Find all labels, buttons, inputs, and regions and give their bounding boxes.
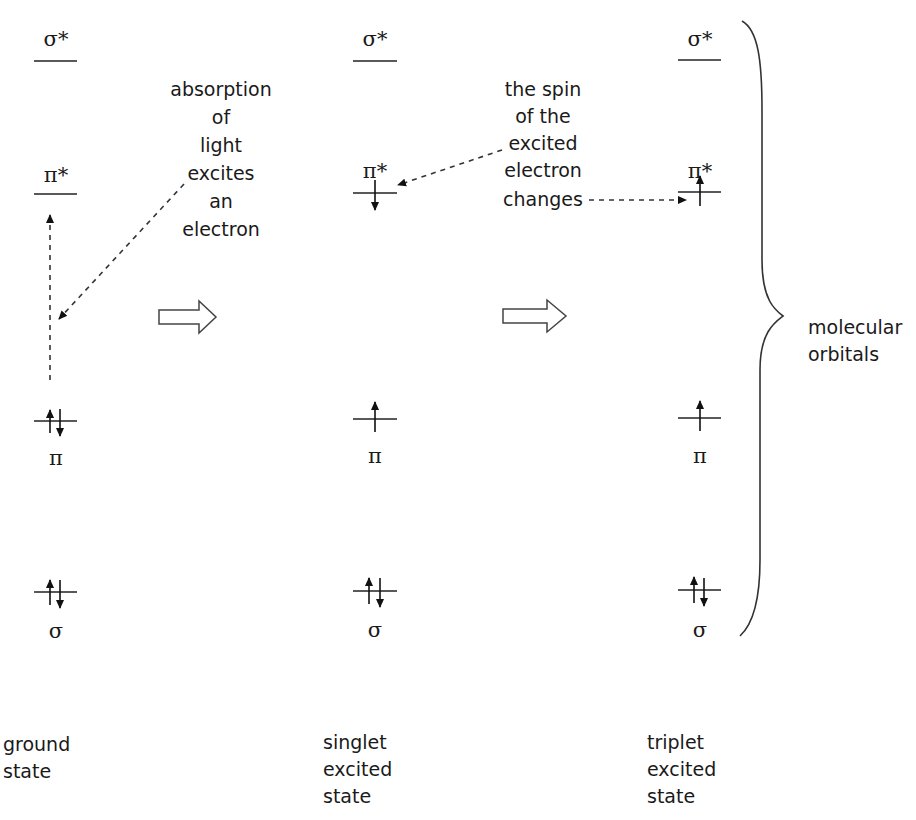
svg-text:electron: electron: [182, 218, 260, 240]
brace-label: molecular orbitals: [808, 316, 903, 365]
transition-arrow-icon: [503, 300, 566, 332]
column-ground-state: σ* π* π σ ground state: [3, 27, 77, 782]
spin-change-annotation: the spin of the excited electron changes: [398, 78, 686, 210]
state-label-line: excited: [647, 758, 716, 780]
svg-text:light: light: [200, 134, 242, 156]
electron-pair-icon: [694, 577, 704, 606]
svg-text:the spin: the spin: [505, 78, 582, 100]
svg-text:an: an: [209, 190, 233, 212]
svg-text:changes: changes: [503, 188, 583, 210]
orbital-label-sigma: σ: [368, 618, 382, 642]
orbital-label-pi-star: π*: [363, 159, 388, 183]
column-singlet-excited-state: σ* π* π σ singlet excited state: [323, 27, 397, 807]
column-triplet-excited-state: σ* π* π σ triplet excited state: [647, 27, 721, 807]
orbital-label-sigma: σ: [693, 618, 707, 642]
jablonski-orbital-diagram: σ* π* π σ ground state absorption of lig…: [0, 0, 916, 820]
orbital-label-pi: π: [49, 446, 63, 470]
orbital-label-sigma-star: σ*: [688, 27, 713, 51]
svg-text:of the: of the: [515, 105, 571, 127]
state-label-line: state: [323, 785, 371, 807]
orbital-label-sigma-star: σ*: [44, 27, 69, 51]
pointer-arrow: [59, 184, 184, 319]
electron-pair-icon: [369, 578, 380, 607]
electron-pair-icon: [50, 409, 60, 436]
svg-text:orbitals: orbitals: [808, 343, 879, 365]
svg-text:excited: excited: [508, 132, 577, 154]
transition-arrow-icon: [159, 301, 216, 333]
brace-icon: [740, 21, 783, 636]
state-label-line: triplet: [647, 731, 704, 753]
state-label-line: state: [647, 785, 695, 807]
state-label-line: singlet: [323, 731, 387, 753]
absorption-annotation: absorption of light excites an electron: [59, 78, 272, 319]
orbital-label-pi: π: [368, 444, 382, 468]
svg-text:excites: excites: [187, 162, 254, 184]
svg-text:of: of: [212, 106, 232, 128]
orbital-label-sigma: σ: [49, 619, 63, 643]
state-label-line: excited: [323, 758, 392, 780]
svg-text:electron: electron: [504, 159, 582, 181]
orbital-label-pi-star: π*: [44, 163, 69, 187]
orbital-label-sigma-star: σ*: [363, 27, 388, 51]
pointer-arrow: [398, 150, 502, 185]
svg-text:molecular: molecular: [808, 316, 903, 338]
state-label-line: ground: [3, 733, 70, 755]
svg-text:absorption: absorption: [170, 78, 272, 100]
orbital-label-pi: π: [693, 444, 707, 468]
electron-pair-icon: [50, 580, 60, 608]
state-label-line: state: [3, 760, 51, 782]
